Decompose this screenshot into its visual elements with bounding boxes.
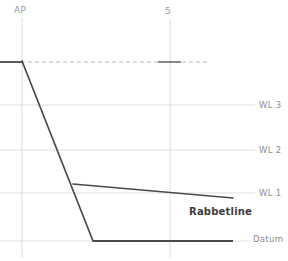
waterline-label-wl1: WL 1 [259, 189, 281, 198]
rabbetline-curve [73, 184, 233, 198]
station-label-ap: AP [14, 6, 26, 15]
waterline-label-wl2: WL 2 [259, 146, 281, 155]
lines-plan-diagram: AP 5 WL 3 WL 2 WL 1 Datum Rabbetline [0, 0, 288, 261]
vertical-gridlines-group [22, 18, 170, 258]
stem-line [22, 61, 93, 241]
waterline-label-wl3: WL 3 [259, 101, 281, 110]
profile-drawing-canvas [0, 0, 288, 261]
station-label-5: 5 [165, 7, 171, 16]
rabbetline-label: Rabbetline [189, 207, 252, 217]
waterline-label-datum: Datum [253, 235, 283, 244]
waterline-gridlines-group [0, 105, 255, 241]
